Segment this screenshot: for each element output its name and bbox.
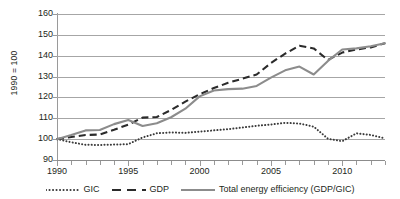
- legend-label: GDP: [150, 185, 170, 194]
- series-line-total-energy-efficiency-gdp-gic: [57, 43, 385, 139]
- chart-figure: 1990 = 100 90100110120130140150160 19901…: [0, 0, 400, 199]
- dashed-line-swatch: [112, 186, 146, 194]
- series-line-gdp: [57, 43, 385, 139]
- legend-item-gdp[interactable]: GDP: [112, 185, 170, 194]
- legend-item-total-energy-efficiency-gdp-gic[interactable]: Total energy efficiency (GDP/GIC): [181, 185, 354, 194]
- dotted-line-swatch: [46, 186, 80, 194]
- series-layer: [0, 0, 400, 199]
- legend-label: Total energy efficiency (GDP/GIC): [219, 185, 354, 194]
- legend-label: GIC: [84, 185, 100, 194]
- series-line-gic: [57, 123, 385, 145]
- chart-legend: GICGDPTotal energy efficiency (GDP/GIC): [0, 180, 400, 199]
- legend-item-gic[interactable]: GIC: [46, 185, 100, 194]
- solid-line-swatch: [181, 186, 215, 194]
